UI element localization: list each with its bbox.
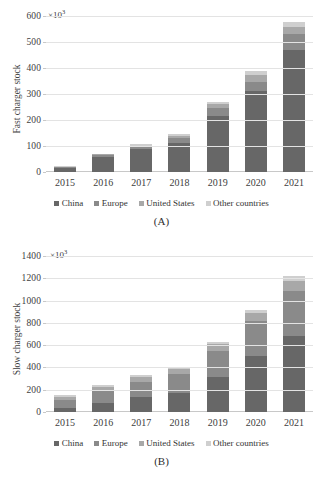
bar-segment-a-2019-europe[interactable] <box>207 108 229 116</box>
legend-item-a-europe[interactable]: Europe <box>94 198 128 208</box>
stacked-bar-a-2017[interactable] <box>130 144 152 172</box>
y-tick-mark-b-1200 <box>43 278 46 279</box>
plot-area-a: 2015201620172018201920202021 01002003004… <box>46 16 313 172</box>
bar-group-b-2015[interactable]: 2015 <box>46 256 84 412</box>
stacked-bar-b-2017[interactable] <box>130 375 152 412</box>
legend-label-a: China <box>62 198 84 208</box>
x-tick-label-b-2019: 2019 <box>208 417 228 428</box>
bar-group-b-2020[interactable]: 2020 <box>237 256 275 412</box>
gridline-a-600 <box>46 16 313 17</box>
bar-segment-b-2021-europe[interactable] <box>283 291 305 337</box>
bar-segment-a-2016-china[interactable] <box>92 157 114 172</box>
bar-segment-a-2020-united-states[interactable] <box>245 75 267 82</box>
legend-a: ChinaEuropeUnited StatesOther countries <box>0 198 323 208</box>
x-tick-label-b-2016: 2016 <box>93 417 113 428</box>
legend-item-a-other-countries[interactable]: Other countries <box>206 198 269 208</box>
gridline-a-500 <box>46 42 313 43</box>
bar-group-b-2021[interactable]: 2021 <box>275 256 313 412</box>
y-tick-label-a-300: 300 <box>26 89 41 99</box>
x-tick-label-a-2021: 2021 <box>284 177 304 188</box>
y-tick-label-a-600: 600 <box>26 11 41 21</box>
stacked-bar-b-2015[interactable] <box>54 395 76 412</box>
y-tick-mark-a-300 <box>43 94 46 95</box>
bar-series-container-b: 2015201620172018201920202021 <box>46 256 313 412</box>
gridline-b-1400 <box>46 256 313 257</box>
legend-item-a-united-states[interactable]: United States <box>139 198 195 208</box>
bar-segment-b-2017-china[interactable] <box>130 397 152 412</box>
legend-item-b-europe[interactable]: Europe <box>94 438 128 448</box>
bar-segment-b-2019-europe[interactable] <box>207 351 229 378</box>
bar-segment-a-2020-europe[interactable] <box>245 82 267 92</box>
plot-area-b: 2015201620172018201920202021 02004006008… <box>46 256 313 412</box>
legend-label-b: China <box>62 438 84 448</box>
exponent-power-b: 3 <box>64 248 67 255</box>
bar-segment-a-2020-china[interactable] <box>245 91 267 172</box>
legend-label-b: Europe <box>102 438 128 448</box>
bar-group-b-2018[interactable]: 2018 <box>160 256 198 412</box>
stacked-bar-b-2021[interactable] <box>283 276 305 412</box>
gridline-a-200 <box>46 120 313 121</box>
stacked-bar-a-2021[interactable] <box>283 22 305 172</box>
y-tick-mark-a-0 <box>43 172 46 173</box>
y-tick-label-b-1200: 1200 <box>22 273 41 283</box>
bar-group-b-2017[interactable]: 2017 <box>122 256 160 412</box>
stacked-bar-a-2015[interactable] <box>54 166 76 172</box>
legend-swatch-china <box>54 441 59 446</box>
figure-caption-b: (B) <box>0 455 323 467</box>
bar-segment-a-2015-china[interactable] <box>54 168 76 172</box>
legend-item-a-china[interactable]: China <box>54 198 83 208</box>
y-tick-label-b-200: 200 <box>26 385 41 395</box>
y-tick-mark-a-500 <box>43 42 46 43</box>
x-tick-label-a-2019: 2019 <box>208 177 228 188</box>
legend-label-a: Other countries <box>213 198 269 208</box>
legend-item-b-united-states[interactable]: United States <box>139 438 195 448</box>
gridline-b-1200 <box>46 278 313 279</box>
bar-segment-b-2020-china[interactable] <box>245 356 267 412</box>
gridline-a-400 <box>46 68 313 69</box>
exponent-power-a: 3 <box>62 8 65 15</box>
bar-segment-b-2015-europe[interactable] <box>54 400 76 407</box>
y-tick-mark-a-200 <box>43 120 46 121</box>
bar-segment-b-2021-united-states[interactable] <box>283 281 305 291</box>
bar-group-b-2019[interactable]: 2019 <box>199 256 237 412</box>
figure-caption-a: (A) <box>0 215 323 227</box>
y-tick-mark-a-400 <box>43 68 46 69</box>
bar-segment-a-2019-china[interactable] <box>207 116 229 172</box>
bar-segment-a-2021-united-states[interactable] <box>283 27 305 35</box>
bar-segment-b-2021-china[interactable] <box>283 336 305 412</box>
gridline-a-300 <box>46 94 313 95</box>
gridline-b-800 <box>46 323 313 324</box>
stacked-bar-b-2019[interactable] <box>207 342 229 412</box>
x-tick-label-a-2018: 2018 <box>169 177 189 188</box>
x-tick-label-a-2017: 2017 <box>131 177 151 188</box>
gridline-b-200 <box>46 390 313 391</box>
y-tick-mark-b-0 <box>43 412 46 413</box>
stacked-bar-a-2016[interactable] <box>92 154 114 172</box>
bar-segment-b-2019-china[interactable] <box>207 377 229 412</box>
bar-segment-a-2018-china[interactable] <box>168 143 190 172</box>
bar-group-b-2016[interactable]: 2016 <box>84 256 122 412</box>
y-tick-label-a-400: 400 <box>26 63 41 73</box>
bar-segment-b-2018-china[interactable] <box>168 393 190 412</box>
gridline-b-600 <box>46 345 313 346</box>
bar-segment-b-2020-united-states[interactable] <box>245 313 267 321</box>
bar-segment-b-2016-china[interactable] <box>92 403 114 412</box>
y-tick-label-b-1400: 1400 <box>22 251 41 261</box>
legend-item-b-china[interactable]: China <box>54 438 83 448</box>
x-tick-label-b-2017: 2017 <box>131 417 151 428</box>
legend-swatch-united-states <box>139 441 144 446</box>
bar-segment-b-2015-china[interactable] <box>54 408 76 412</box>
bar-segment-b-2020-europe[interactable] <box>245 321 267 357</box>
stacked-bar-a-2018[interactable] <box>168 134 190 172</box>
x-tick-label-a-2015: 2015 <box>55 177 75 188</box>
y-tick-mark-b-1400 <box>43 256 46 257</box>
bar-segment-a-2017-china[interactable] <box>130 149 152 172</box>
stacked-bar-b-2020[interactable] <box>245 310 267 412</box>
bar-segment-b-2016-europe[interactable] <box>92 391 114 403</box>
stacked-bar-a-2020[interactable] <box>245 71 267 172</box>
legend-item-b-other-countries[interactable]: Other countries <box>206 438 269 448</box>
x-tick-label-b-2018: 2018 <box>169 417 189 428</box>
stacked-bar-a-2019[interactable] <box>207 102 229 172</box>
legend-swatch-other-countries <box>206 201 211 206</box>
x-tick-label-b-2020: 2020 <box>246 417 266 428</box>
